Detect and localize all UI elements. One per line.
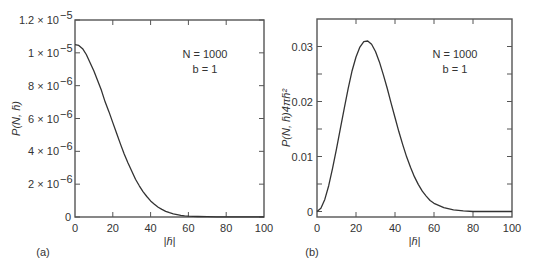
annotation-n: N = 1000 [183,48,228,60]
x-tick-label: 100 [503,222,521,234]
x-tick-label: 100 [255,222,273,234]
x-axis-label: |h̄| [409,235,421,247]
annotation-b: b = 1 [193,63,218,75]
x-tick-label: 20 [107,222,119,234]
y-tick-label: 1.2 × 10 [19,14,59,26]
x-axis-label: |h̄| [164,235,176,247]
x-tick-label: 80 [220,222,232,234]
y-tick-label: 1 × 10 [28,47,59,59]
x-tick-label: 60 [182,222,194,234]
y-axis-label: P(N, h̄) [10,101,22,136]
y-tick-exponent: −5 [60,42,73,54]
y-tick-exponent: −6 [60,140,73,152]
plot-frame [317,19,512,217]
x-tick-label: 0 [72,222,78,234]
x-tick-label: 0 [314,222,320,234]
y-tick-exponent: −5 [60,9,73,21]
plot-frame [75,20,264,217]
y-axis-label: P(N, h̄)4πh̄² [280,89,292,147]
x-tick-label: 60 [428,222,440,234]
x-tick-label: 40 [144,222,156,234]
y-tick-label: 0.01 [292,151,313,163]
panel-label: (a) [36,246,49,258]
annotation-b: b = 1 [443,63,468,75]
y-tick-label: 2 × 10 [28,178,59,190]
y-tick-label: 0 [307,206,313,218]
x-tick-label: 20 [350,222,362,234]
figure: 02040608010002 × 10−64 × 10−66 × 10−68 ×… [0,0,533,272]
x-tick-label: 40 [389,222,401,234]
y-tick-label: 8 × 10 [28,80,59,92]
chart-panel-b: 02040608010000.010.020.03N = 1000b = 1|h… [280,19,521,258]
data-curve [75,45,264,217]
y-tick-label: 4 × 10 [28,145,59,157]
x-tick-label: 80 [467,222,479,234]
y-tick-label: 6 × 10 [28,113,59,125]
data-curve [317,41,512,212]
annotation-n: N = 1000 [433,48,478,60]
panel-label: (b) [305,246,318,258]
y-tick-label: 0 [65,211,71,223]
chart-panel-a: 02040608010002 × 10−64 × 10−66 × 10−68 ×… [10,9,273,258]
y-tick-exponent: −6 [60,108,73,120]
y-tick-exponent: −6 [60,75,73,87]
y-tick-exponent: −6 [60,173,73,185]
y-tick-label: 0.02 [292,96,313,108]
y-tick-label: 0.03 [292,41,313,53]
